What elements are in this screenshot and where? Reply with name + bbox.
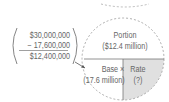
calc-line-1: $30,000,000 xyxy=(17,30,70,40)
right-parenthesis xyxy=(73,28,77,64)
portion-label: Portion xyxy=(106,31,143,40)
base-label: Base × xyxy=(99,65,128,74)
rate-label: Rate xyxy=(129,65,148,74)
base-value: (17.6 million) xyxy=(83,76,120,85)
calc-line-2: − 17,600,000 xyxy=(17,40,70,50)
partial-circle-top xyxy=(101,4,149,7)
arrow-head-icon xyxy=(81,65,85,68)
calc-result: $12,400,000 xyxy=(17,51,70,61)
portion-value: ($12.4 million) xyxy=(101,42,149,51)
rate-value: (?) xyxy=(129,76,148,85)
